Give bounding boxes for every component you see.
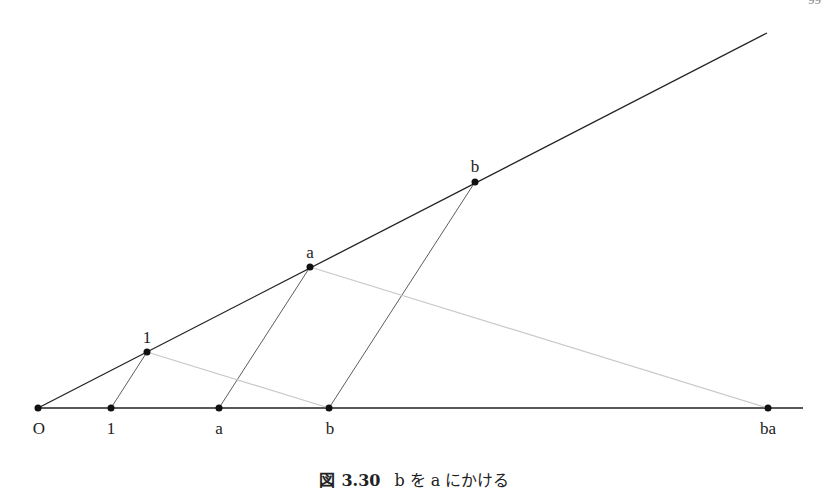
- point-ray-b: [472, 179, 479, 186]
- label-ray-one: 1: [143, 328, 152, 348]
- caption-number: 3.30: [341, 471, 380, 490]
- label-bottom-one: 1: [107, 419, 116, 439]
- parallel-a: [219, 267, 310, 408]
- point-bottom-b: [326, 405, 333, 412]
- point-bottom-a: [216, 405, 223, 412]
- label-ray-b: b: [471, 157, 480, 177]
- connector-a-ba: [310, 267, 768, 408]
- caption-prefix: 図: [319, 471, 335, 490]
- parallel-1: [111, 352, 147, 408]
- label-ray-a: a: [306, 243, 314, 263]
- label-origin: O: [33, 419, 45, 439]
- label-bottom-a: a: [215, 419, 223, 439]
- point-ray-one: [144, 349, 151, 356]
- point-ray-a: [307, 264, 314, 271]
- label-bottom-b: b: [326, 419, 335, 439]
- label-bottom-ba: ba: [760, 419, 776, 439]
- point-origin: [35, 405, 42, 412]
- geometry-diagram: [0, 0, 829, 493]
- figure-caption: 図3.30b を a にかける: [0, 467, 829, 491]
- point-bottom-ba: [765, 405, 772, 412]
- caption-text: b を a にかける: [394, 471, 509, 490]
- connector-1-b: [147, 352, 329, 408]
- point-bottom-one: [108, 405, 115, 412]
